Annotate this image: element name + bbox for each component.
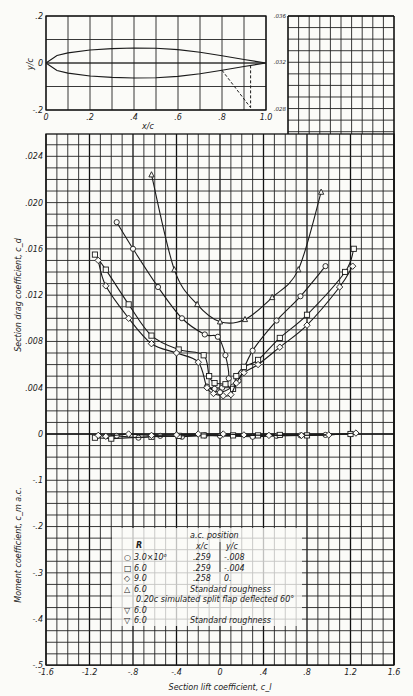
right-ytick: .028: [274, 106, 287, 112]
data-point-circle: [250, 348, 255, 353]
legend-symbol: ○: [124, 553, 131, 562]
data-point-square: [230, 433, 235, 438]
airfoil-section-chart: 0.2.4.6.81.0.20-.2.036.032.028 x/c y/c 0…: [0, 0, 413, 696]
lift-xtick: -1.2: [82, 668, 98, 677]
legend-r-value: 6.0: [134, 616, 147, 625]
data-point-circle: [226, 376, 231, 381]
legend-r-value: 6.0: [134, 606, 147, 615]
legend-note: Standard roughness: [190, 616, 271, 625]
data-point-triangle: [319, 189, 324, 194]
lift-xtick: -1.6: [38, 668, 54, 677]
airfoil-xlabel: x/c: [141, 122, 154, 131]
legend-xc-value: .259: [193, 564, 211, 573]
airfoil-ylabel: y/c: [26, 57, 35, 70]
data-point-square: [126, 302, 131, 307]
data-point-circle: [215, 334, 220, 339]
legend-yc-value: 0.: [224, 574, 232, 583]
data-point-square: [109, 436, 114, 441]
moment-ytick: -.1: [32, 476, 43, 485]
data-point-triangle: [149, 172, 154, 177]
drag-ytick: .012: [25, 291, 43, 300]
drag-tick-labels: 0.004.008.012.016.020.024: [25, 152, 43, 439]
lift-xtick: 1.6: [388, 668, 401, 677]
airfoil-xtick: .2: [86, 113, 94, 122]
airfoil-ytick: .2: [35, 12, 43, 21]
lift-xtick: .4: [260, 668, 268, 677]
data-point-square: [234, 374, 239, 379]
data-point-circle: [179, 316, 184, 321]
legend-flap-note: 0.20c simulated split flap deflected 60°: [136, 595, 294, 604]
legend-header-ac: a.c. position: [190, 531, 239, 540]
right-ytick: .036: [274, 13, 287, 19]
data-point-circle: [158, 433, 163, 438]
legend-symbol: ▽: [124, 606, 131, 615]
airfoil-ytick: 0: [38, 59, 43, 68]
legend-header-r: R: [136, 541, 142, 550]
lift-xtick: -.4: [171, 668, 182, 677]
drag-series-triangle: [149, 172, 324, 324]
drag-series-diamond: [95, 257, 356, 399]
moment-axis-label: Moment coefficient, c_m a.c.: [14, 487, 23, 602]
legend-symbol: ◇: [124, 574, 131, 583]
legend-header-xc: x/c: [195, 542, 208, 551]
legend-r-value: 9.0: [134, 574, 147, 583]
data-point-square: [201, 353, 206, 358]
legend-xc-value: .259: [193, 553, 211, 562]
data-point-circle: [202, 332, 207, 337]
legend-symbol: ▽: [124, 616, 131, 625]
legend: R a.c. position x/c y/c ○3.0×10⁶.259-.00…: [112, 528, 302, 626]
legend-r-value: 6.0: [134, 585, 147, 594]
legend-xc-value: .258: [193, 574, 211, 583]
data-point-diamond: [353, 430, 359, 436]
right-ytick: .032: [274, 59, 287, 65]
lift-xtick: 1.2: [344, 668, 357, 677]
legend-symbol: □: [124, 564, 132, 573]
lift-xtick: -.8: [128, 668, 139, 677]
drag-curve-circle: [117, 222, 326, 392]
moment-tick-labels: -.1-.2-.3-.4-.5: [32, 476, 43, 670]
airfoil-xtick: 0: [43, 113, 48, 122]
airfoil-xtick: .4: [130, 113, 138, 122]
airfoil-xtick: .6: [174, 113, 182, 122]
lift-tick-labels: -1.6-1.2-.8-.40.4.81.21.6: [38, 668, 400, 677]
data-point-circle: [298, 294, 303, 299]
moment-ytick: -.4: [32, 615, 43, 624]
data-point-diamond: [228, 391, 234, 397]
lift-xtick: .8: [303, 668, 311, 677]
data-point-square: [92, 252, 97, 257]
data-point-circle: [114, 220, 119, 225]
drag-axis-label: Section drag coefficient, c_d: [14, 237, 23, 352]
data-point-square: [277, 335, 282, 340]
data-point-square: [207, 374, 212, 379]
data-point-circle: [130, 246, 135, 251]
legend-symbol: △: [124, 585, 131, 594]
data-point-square: [351, 246, 356, 251]
drag-ytick: .016: [25, 245, 43, 254]
legend-note: Standard roughness: [190, 585, 271, 594]
data-point-circle: [155, 284, 160, 289]
data-point-square: [223, 382, 228, 387]
drag-ytick: .008: [25, 337, 43, 346]
drag-curve-square: [95, 249, 354, 389]
legend-r-value: 3.0×10⁶: [134, 553, 168, 562]
airfoil-tick-labels: 0.2.4.6.81.0.20-.2.036.032.028: [32, 12, 286, 122]
moment-ytick: -.2: [32, 522, 43, 531]
data-point-square: [304, 312, 309, 317]
legend-r-value: 6.0: [134, 564, 147, 573]
drag-ytick: .020: [25, 199, 43, 208]
data-point-square: [342, 269, 347, 274]
data-point-square: [241, 364, 246, 369]
data-point-diamond: [266, 432, 272, 438]
data-point-circle: [323, 264, 328, 269]
legend-yc-value: -.004: [224, 564, 245, 573]
x-axis-label: Section lift coefficient, c_l: [169, 683, 273, 692]
legend-yc-value: -.008: [224, 553, 245, 562]
data-point-circle: [223, 353, 228, 358]
airfoil-xtick: 1.0: [260, 113, 273, 122]
data-point-square: [103, 267, 108, 272]
data-point-square: [149, 333, 154, 338]
legend-header-yc: y/c: [225, 542, 238, 551]
lift-xtick: 0: [217, 668, 222, 677]
airfoil-ytick: -.2: [32, 106, 43, 115]
data-point-circle: [274, 318, 279, 323]
